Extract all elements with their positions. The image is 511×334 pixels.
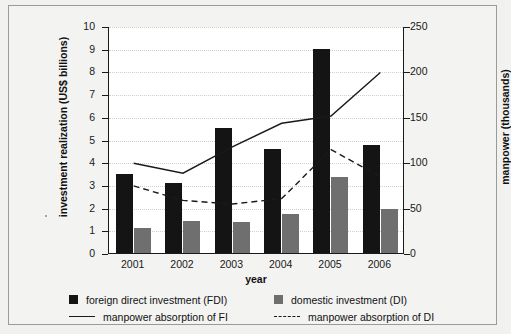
legend-item-di: domestic investment (DI): [274, 294, 407, 306]
y-axis-right-label: manpower (thousands): [499, 27, 511, 227]
y-tick-label-right: 200: [410, 66, 450, 76]
x-tick-label: 2004: [256, 258, 306, 270]
line-manpower-di: [134, 150, 381, 204]
legend-label-manpower-di: manpower absorption of DI: [308, 311, 434, 323]
legend-label-di: domestic investment (DI): [291, 294, 407, 306]
y-tick-mark-left: [102, 254, 108, 255]
legend-label-fdi: foreign direct investment (FDI): [86, 294, 227, 306]
y-tick-mark-right: [404, 254, 410, 255]
x-tick-label: 2003: [206, 258, 256, 270]
legend-row-bars: foreign direct investment (FDI) domestic…: [69, 291, 459, 308]
square-dark-icon: [69, 295, 78, 304]
x-tick-label: 2002: [157, 258, 207, 270]
chart-legend: foreign direct investment (FDI) domestic…: [69, 291, 459, 325]
x-tick-label: 2005: [305, 258, 355, 270]
legend-row-lines: manpower absorption of FI manpower absor…: [69, 308, 459, 325]
y-tick-label-left: 0: [55, 248, 95, 258]
plot-area: [108, 27, 404, 254]
y-tick-label-right: 0: [410, 248, 450, 258]
line-series-container: [109, 27, 405, 254]
x-tick-label: 2001: [108, 258, 158, 270]
line-solid-icon: [69, 312, 95, 321]
y-tick-label-right: 250: [410, 21, 450, 31]
legend-item-manpower-di: manpower absorption of DI: [274, 311, 434, 323]
scan-speck: [45, 215, 47, 217]
legend-label-manpower-fi: manpower absorption of FI: [103, 311, 228, 323]
chart-frame: 012345678910 050100150200250 investment …: [8, 5, 497, 325]
x-axis-label: year: [108, 273, 404, 285]
line-dashed-icon: [274, 312, 300, 321]
y-axis-left-label: investment realization (US$ billions): [57, 27, 69, 227]
y-tick-label-right: 150: [410, 112, 450, 122]
square-gray-icon: [274, 295, 283, 304]
line-manpower-fi: [134, 72, 381, 173]
legend-item-manpower-fi: manpower absorption of FI: [69, 311, 274, 323]
y-tick-label-right: 50: [410, 203, 450, 213]
legend-item-fdi: foreign direct investment (FDI): [69, 294, 274, 306]
y-tick-label-right: 100: [410, 157, 450, 167]
x-tick-label: 2006: [354, 258, 404, 270]
